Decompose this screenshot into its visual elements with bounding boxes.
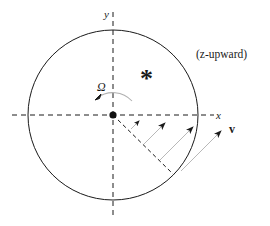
velocity-arrow-4 [181,131,221,171]
orientation-note-text: (z-upward) [196,48,247,61]
rotation-arrowhead-icon [95,94,101,100]
star-symbol: * [140,64,153,93]
center-point [109,111,116,118]
omega-label: Ω [97,80,106,94]
orientation-note: (z-upward) [196,48,247,61]
velocity-arrow-1 [131,121,139,129]
velocity-arrow-2 [144,123,165,144]
y-axis-label: y [103,8,109,20]
x-axis-label: x [215,109,221,121]
velocity-label: v [229,122,235,136]
rotating-disk-diagram: y x Ω * (z-upward) v [0,0,270,226]
